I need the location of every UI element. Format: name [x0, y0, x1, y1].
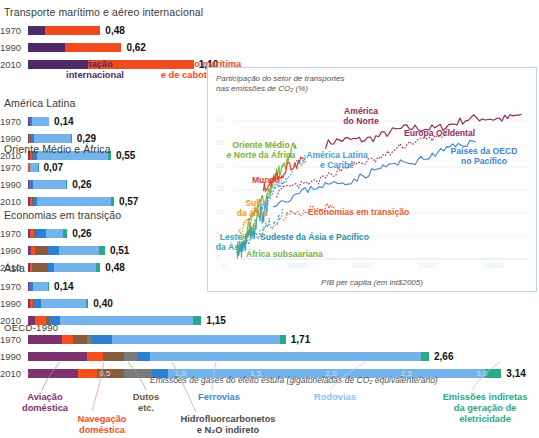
bar-row-year: 1970 — [0, 116, 26, 127]
inset-ytick: 30 — [216, 116, 224, 123]
axis-caption: Emissões de gases do efeito estufa (giga… — [150, 375, 438, 385]
bar-segment-dutos-etc — [103, 352, 124, 361]
legend-aviacao-domestica: Aviação doméstica — [4, 392, 86, 414]
inset-series-label-mundo: Mundo — [236, 175, 296, 185]
group-title-oriente-medio-africa: Oriente Médio e África — [4, 143, 111, 155]
stacked-bar — [28, 246, 105, 255]
bar-row: 19700,48 — [0, 25, 539, 36]
bar-row-value: 0,14 — [54, 281, 73, 292]
inset-ytick: 0 — [216, 254, 220, 261]
inset-series-label-oriente-medio-norte-africa: Oriente Médio e Norte da África — [216, 140, 306, 160]
group-title-transporte-internacional: Transporte marítimo e aéreo internaciona… — [4, 6, 203, 18]
bar-row-value: 0,48 — [105, 262, 124, 273]
bar-segment-dutos-etc — [32, 263, 48, 272]
stacked-bar — [28, 26, 100, 35]
bar-row-value: 0,62 — [126, 42, 145, 53]
bar-segment-rodovias — [34, 134, 71, 143]
bar-row: 19701,71 — [0, 334, 539, 345]
bar-segment-ferrovias — [91, 335, 112, 344]
infographic-canvas: Transporte marítimo e aéreo internaciona… — [0, 0, 539, 438]
bar-segment-aviacao-domestica — [28, 335, 62, 344]
stacked-bar — [28, 352, 429, 361]
bar-segment-aviacao-domestica — [28, 369, 78, 378]
inset-ytick: 15 — [216, 185, 224, 192]
bar-row: 19900,62 — [0, 42, 539, 53]
legend-rodovias: Rodovias — [300, 392, 370, 403]
bar-row-year: 1970 — [0, 25, 26, 36]
legend-emissoes-indiretas: Emissões indiretas da geração de eletric… — [432, 392, 538, 425]
inset-xtick: 30000 — [418, 262, 437, 269]
bar-row-year: 1990 — [0, 245, 26, 256]
bar-row-value: 0,57 — [119, 196, 138, 207]
bar-segment-eletricidade — [71, 134, 72, 143]
bar-segment-navegacao-domestica — [87, 352, 104, 361]
legend-navegacao-domestica: Navegação doméstica — [52, 414, 152, 436]
stacked-bar — [28, 229, 67, 238]
bar-row-year: 1990 — [0, 351, 26, 362]
bar-segment-eletricidade — [280, 335, 286, 344]
bar-row-year: 2010 — [0, 196, 26, 207]
x-axis-tick: 0,5 — [99, 369, 110, 378]
bar-segment-hfc-n2o — [124, 369, 151, 378]
group-title-america-latina: América Latina — [4, 97, 75, 109]
bar-row-year: 1970 — [0, 281, 26, 292]
bar-segment-eletricidade — [193, 316, 201, 325]
group-title-economias-transicao: Economias em transição — [4, 209, 121, 221]
inset-panel: Participação do setor de transportes nas… — [207, 67, 537, 292]
bar-row-year: 1970 — [0, 162, 26, 173]
bar-segment-rodovias — [32, 117, 49, 126]
bar-segment-eletricidade — [48, 282, 49, 291]
stacked-bar — [28, 134, 72, 143]
bar-segment-navegacao-domestica — [62, 335, 73, 344]
bar-segment-ferrovias — [48, 246, 59, 255]
bar-segment-rodovias — [37, 197, 110, 206]
inset-series-label-economias-em-transicao: Economias em transição — [308, 207, 432, 217]
bar-segment-rodovias — [112, 335, 279, 344]
bar-segment-dutos-etc — [35, 246, 49, 255]
bar-row-value: 2,66 — [434, 351, 453, 362]
inset-series-label-europa-ocidental: Europa Ocidental — [404, 128, 514, 138]
inset-xtick: 40000 — [483, 262, 502, 269]
callout-aviacao-internacional: Aviação internacional — [52, 59, 138, 81]
bar-segment-eletricidade — [66, 180, 67, 189]
bar-segment-rodovias — [60, 316, 194, 325]
bar-row-value: 0,26 — [72, 228, 91, 239]
bar-segment-rodovias — [33, 282, 48, 291]
inset-series-label-africa-subsaariana: África subsaariana — [246, 249, 344, 259]
x-axis-line — [28, 386, 533, 387]
bar-segment-navegacao-domestica — [78, 369, 98, 378]
bar-row-year: 2010 — [0, 368, 26, 379]
bar-segment-eletricidade — [99, 246, 105, 255]
bar-row-year: 1970 — [0, 334, 26, 345]
bar-row-value: 0,48 — [105, 25, 124, 36]
bar-segment-ferrovias — [34, 299, 41, 308]
bar-row-value: 0,40 — [93, 298, 112, 309]
stacked-bar — [28, 263, 100, 272]
bar-segment-ferrovias — [36, 229, 46, 238]
legend-dutos-etc: Dutos etc. — [118, 392, 174, 414]
bar-row-value: 0,51 — [110, 245, 129, 256]
bar-row: 19900,40 — [0, 298, 539, 309]
bar-row-year: 1990 — [0, 42, 26, 53]
bar-segment-rodovias — [59, 246, 99, 255]
group-title-asia: Ásia — [4, 262, 25, 274]
bar-row-value: 1,71 — [291, 334, 310, 345]
bar-row-value: 3,14 — [506, 368, 525, 379]
bar-segment-rodovias — [33, 180, 66, 189]
bar-row: 19902,66 — [0, 351, 539, 362]
stacked-bar — [28, 282, 49, 291]
inset-series-label-paises-oecd-pacifico: Países da OECD no Pacífico — [436, 146, 532, 166]
inset-xtick: 0 — [222, 262, 226, 269]
bar-row-value: 0,26 — [72, 179, 91, 190]
inset-series-label-sudeste-asia-pacifico: Sudeste da Ásia e Pacífico — [260, 232, 384, 242]
bar-row-year: 2010 — [0, 59, 26, 70]
bar-segment-eletricidade — [96, 263, 100, 272]
bar-segment-eletricidade — [86, 299, 88, 308]
bar-segment-aviacao-internacional — [28, 26, 45, 35]
bar-segment-navegacao-maritima-cabotagem — [45, 26, 100, 35]
bar-segment-rodovias — [30, 163, 38, 172]
stacked-bar — [28, 117, 49, 126]
x-axis-tick: 0 — [24, 369, 28, 378]
stacked-bar — [28, 43, 121, 52]
bar-row-year: 1990 — [0, 298, 26, 309]
